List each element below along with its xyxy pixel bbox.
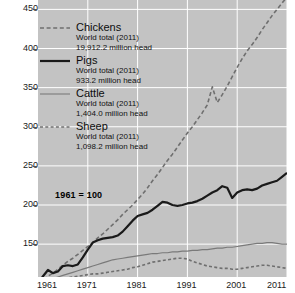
legend-item-pigs[interactable]: Pigs World total (2011) 933.2 million he… bbox=[40, 55, 200, 85]
x-axis-tick-label: 1961 bbox=[37, 280, 57, 290]
legend-total-value-sheep: 1,098.2 million head bbox=[76, 142, 200, 152]
x-axis-tick-label: 1981 bbox=[127, 280, 147, 290]
legend-label-chickens: Chickens bbox=[76, 22, 121, 33]
y-axis-tick-label: 450 bbox=[0, 4, 47, 13]
solid-thin-line-icon bbox=[40, 90, 70, 98]
legend-total-value-pigs: 933.2 million head bbox=[76, 76, 200, 86]
y-axis-tick-mark bbox=[33, 166, 37, 167]
legend-label-sheep: Sheep bbox=[76, 121, 108, 132]
x-axis-tick-label: 1991 bbox=[176, 280, 196, 290]
legend-total-label-sheep: World total (2011) bbox=[76, 132, 200, 142]
legend-total-label-chickens: World total (2011) bbox=[76, 33, 200, 43]
legend-item-chickens[interactable]: Chickens World total (2011) 19,912.2 mil… bbox=[40, 22, 200, 52]
series-line-pigs bbox=[38, 173, 287, 277]
dashed-line-icon bbox=[40, 24, 70, 32]
series-line-sheep bbox=[38, 258, 287, 277]
solid-thick-line-icon bbox=[40, 57, 70, 65]
legend-total-value-chickens: 19,912.2 million head bbox=[76, 43, 200, 53]
legend-total-label-cattle: World total (2011) bbox=[76, 99, 200, 109]
legend-item-cattle[interactable]: Cattle World total (2011) 1,404.0 millio… bbox=[40, 88, 200, 118]
x-axis-tick-label: 2011 bbox=[267, 280, 286, 290]
base-index-annotation: 1961 = 100 bbox=[55, 190, 102, 200]
legend-total-value-cattle: 1,404.0 million head bbox=[76, 109, 200, 119]
legend-total-label-pigs: World total (2011) bbox=[76, 66, 200, 76]
series-line-cattle bbox=[38, 243, 287, 277]
x-axis-tick-label: 2001 bbox=[226, 280, 246, 290]
y-axis-tick-mark bbox=[33, 49, 37, 50]
x-axis-tick-label: 1971 bbox=[77, 280, 97, 290]
dashed-fine-line-icon bbox=[40, 123, 70, 131]
y-axis-tick-label: 200 bbox=[0, 200, 47, 209]
legend: Chickens World total (2011) 19,912.2 mil… bbox=[40, 22, 200, 154]
y-axis-tick-label: 150 bbox=[0, 239, 47, 248]
legend-label-cattle: Cattle bbox=[76, 88, 105, 99]
y-axis-tick-label: 250 bbox=[0, 161, 47, 170]
y-axis-tick-mark bbox=[33, 127, 37, 128]
y-axis-tick-mark bbox=[33, 9, 37, 10]
y-axis-tick-mark bbox=[33, 244, 37, 245]
y-axis-tick-mark bbox=[33, 205, 37, 206]
legend-label-pigs: Pigs bbox=[76, 55, 97, 66]
y-axis-tick-mark bbox=[33, 88, 37, 89]
livestock-index-chart: 450400350300250200150 196119711981199120… bbox=[0, 0, 295, 293]
legend-item-sheep[interactable]: Sheep World total (2011) 1,098.2 million… bbox=[40, 121, 200, 151]
